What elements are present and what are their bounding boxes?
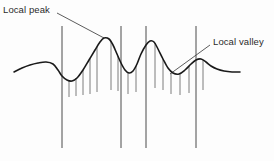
vertical-lines-group	[62, 26, 196, 148]
signal-curve	[14, 38, 240, 81]
leader-lines-group	[57, 13, 210, 74]
annotation-label-local-peak: Local peak	[3, 4, 50, 15]
tick-marks-group	[69, 41, 203, 97]
signal-peak-valley-diagram	[0, 0, 274, 161]
leader-line-local-peak	[57, 13, 104, 38]
annotation-label-local-valley: Local valley	[213, 36, 264, 47]
figure-container: Local peak Local valley	[0, 0, 274, 161]
leader-line-local-valley	[170, 45, 210, 74]
